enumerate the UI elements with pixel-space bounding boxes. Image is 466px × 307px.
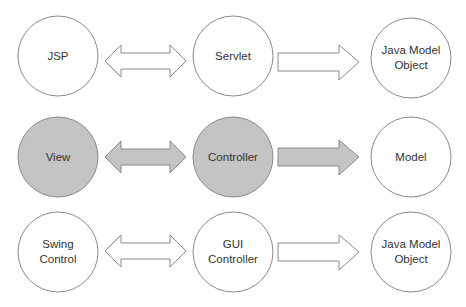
node-model: Model	[371, 117, 451, 197]
node-label: View	[46, 150, 71, 165]
node-label: GUI Controller	[208, 237, 258, 267]
right-arrow-icon	[278, 235, 359, 270]
node-label: Controller	[208, 150, 258, 165]
node-gui-controller: GUI Controller	[193, 212, 273, 292]
node-swing-control: Swing Control	[18, 212, 98, 292]
node-servlet: Servlet	[193, 16, 273, 96]
bidirectional-arrow-icon	[105, 235, 186, 267]
node-label: Servlet	[215, 49, 251, 64]
node-label: Model	[395, 150, 426, 165]
node-java-model-object-2: Java Model Object	[371, 212, 451, 292]
node-label: JSP	[47, 49, 68, 64]
bidirectional-arrow-icon	[105, 45, 186, 77]
node-view: View	[18, 117, 98, 197]
bidirectional-arrow-icon	[105, 141, 186, 173]
right-arrow-icon	[278, 45, 359, 80]
node-controller: Controller	[193, 117, 273, 197]
node-label: Swing Control	[39, 237, 76, 267]
right-arrow-icon	[278, 140, 359, 175]
node-jsp: JSP	[18, 16, 98, 96]
node-java-model-object-1: Java Model Object	[371, 18, 451, 98]
node-label: Java Model Object	[382, 43, 441, 73]
node-label: Java Model Object	[382, 237, 441, 267]
